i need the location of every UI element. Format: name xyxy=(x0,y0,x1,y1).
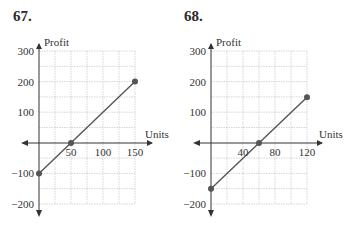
x-tick: 100 xyxy=(95,146,112,158)
x-tick: 50 xyxy=(66,146,78,158)
y-tick: 100 xyxy=(190,106,207,118)
grid-68 xyxy=(211,51,307,204)
data-point xyxy=(304,94,310,100)
x-tick: 150 xyxy=(127,146,144,158)
x-tick: 80 xyxy=(270,146,282,158)
y-axis-label-68: Profit xyxy=(216,36,241,48)
y-tick: −200 xyxy=(183,198,206,210)
y-tick: −100 xyxy=(183,167,206,179)
charts-canvas: Profit Units 300 200 100 −100 −200 50 10… xyxy=(0,0,351,232)
y-tick: 100 xyxy=(18,106,35,118)
chart-68: Profit Units 300 200 100 −100 −200 40 80… xyxy=(183,36,343,217)
data-point xyxy=(208,186,214,192)
data-point xyxy=(132,79,138,85)
y-tick: 300 xyxy=(190,45,207,57)
y-tick: 200 xyxy=(190,76,207,88)
x-axis-label-67: Units xyxy=(145,128,169,140)
y-axis-down-arrow-icon xyxy=(36,210,42,217)
y-tick: −100 xyxy=(11,167,34,179)
y-tick: 200 xyxy=(18,76,35,88)
x-axis-label-68: Units xyxy=(319,128,343,140)
y-axis-label-67: Profit xyxy=(44,36,69,48)
x-axis-left-arrow-icon xyxy=(193,140,200,146)
data-point xyxy=(256,140,262,146)
x-tick: 120 xyxy=(299,146,316,158)
y-tick: −200 xyxy=(11,198,34,210)
data-point xyxy=(36,170,42,176)
y-axis-down-arrow-icon xyxy=(208,210,214,217)
x-tick: 40 xyxy=(238,146,250,158)
x-axis-left-arrow-icon xyxy=(21,140,28,146)
y-tick: 300 xyxy=(18,45,35,57)
chart-67: Profit Units 300 200 100 −100 −200 50 10… xyxy=(11,36,169,217)
